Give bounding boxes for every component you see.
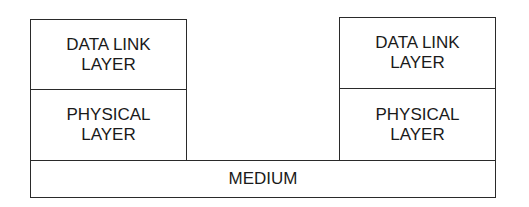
left-data-link-layer: DATA LINK LAYER <box>30 19 187 90</box>
right-physical-layer: PHYSICAL LAYER <box>339 88 496 161</box>
right-data-link-label: DATA LINK LAYER <box>375 33 459 73</box>
medium-label: MEDIUM <box>229 169 298 189</box>
right-data-link-layer: DATA LINK LAYER <box>339 17 496 89</box>
right-physical-label: PHYSICAL LAYER <box>375 105 459 145</box>
left-data-link-label: DATA LINK LAYER <box>66 35 150 75</box>
left-physical-layer: PHYSICAL LAYER <box>30 89 187 161</box>
left-physical-label: PHYSICAL LAYER <box>66 105 150 145</box>
medium: MEDIUM <box>30 160 496 198</box>
